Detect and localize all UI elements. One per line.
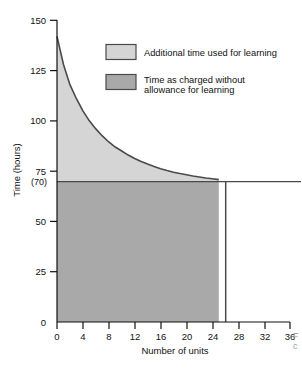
area-time-as-charged: [57, 181, 219, 322]
y-tick-label-100: 100: [30, 115, 46, 126]
y-tick-label-0: 0: [41, 317, 46, 328]
caption-fragment-line2: c: [293, 341, 298, 351]
legend-swatch-time-as-charged: [106, 75, 136, 90]
x-tick-label-20: 20: [182, 331, 193, 342]
learning-curve-figure: 150 125 100 75 (70) 50 25 0 0 4 8 12 16 …: [0, 0, 302, 372]
x-tick-label-0: 0: [54, 331, 59, 342]
legend-item-additional-time: Additional time used for learning: [106, 45, 277, 60]
y-tick-label-125: 125: [30, 65, 46, 76]
chart-canvas: 150 125 100 75 (70) 50 25 0 0 4 8 12 16 …: [0, 0, 302, 372]
caption-fragment-line1: F: [293, 331, 299, 341]
y-tick-label-25: 25: [35, 266, 46, 277]
legend-label-time-as-charged-line2: allowance for learning: [144, 85, 234, 95]
legend-swatch-additional-time: [106, 45, 136, 60]
x-tick-label-28: 28: [234, 331, 245, 342]
y-axis-title: Time (hours): [11, 143, 22, 197]
x-axis-title: Number of units: [141, 345, 208, 356]
x-tick-label-12: 12: [130, 331, 141, 342]
y-tick-label-70: (70): [31, 177, 47, 187]
x-tick-label-16: 16: [156, 331, 167, 342]
legend-label-additional-time: Additional time used for learning: [144, 48, 277, 58]
y-tick-label-150: 150: [30, 15, 46, 26]
x-tick-label-8: 8: [106, 331, 111, 342]
x-tick-label-24: 24: [208, 331, 219, 342]
x-tick-label-4: 4: [80, 331, 85, 342]
x-tick-label-32: 32: [260, 331, 271, 342]
y-tick-label-50: 50: [35, 216, 46, 227]
legend-label-time-as-charged-line1: Time as charged without: [144, 75, 245, 85]
y-tick-label-75: 75: [35, 166, 46, 177]
